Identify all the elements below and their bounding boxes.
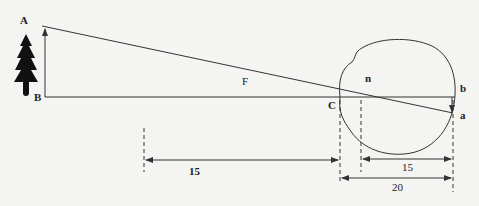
dimension-label-nodal: 15 <box>402 162 413 173</box>
label-n: n <box>365 73 371 84</box>
eye-diagram: A B F C n b a 15 15 20 <box>0 0 479 206</box>
dimension-label-eye: 20 <box>392 182 403 193</box>
tree-icon <box>14 34 38 96</box>
label-f: F <box>242 76 248 87</box>
light-ray <box>42 26 453 113</box>
label-c: C <box>328 100 336 111</box>
diagram-canvas <box>0 0 479 206</box>
label-b-lower: b <box>460 83 466 94</box>
label-a-lower: a <box>460 110 466 121</box>
dimension-label-object: 15 <box>189 166 200 177</box>
label-a-upper: A <box>20 15 28 26</box>
label-b-upper: B <box>34 92 41 103</box>
